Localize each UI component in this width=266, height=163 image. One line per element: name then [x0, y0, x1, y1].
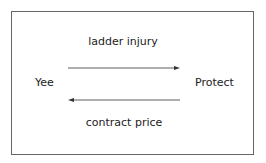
right-arrow-icon — [68, 66, 180, 70]
left-arrow-icon — [68, 98, 180, 102]
flow-arrows — [0, 0, 266, 163]
